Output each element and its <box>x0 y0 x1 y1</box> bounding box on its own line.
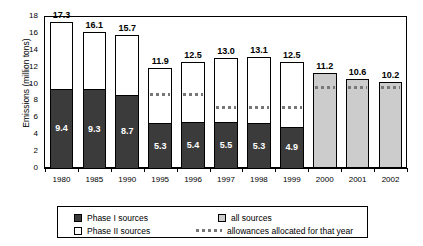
bar-phase1-value-1995: 5.3 <box>148 142 172 151</box>
all-sources-swatch <box>218 214 226 222</box>
chart-root: Emissions (million tons) 024681012141618… <box>0 0 423 246</box>
legend-label-allowances: allowances allocated for that year <box>227 226 353 236</box>
bar-group-1995[interactable]: 5.311.9 <box>148 16 172 168</box>
legend-label-all-sources: all sources <box>231 213 272 223</box>
bar-phase1-value-1998: 5.3 <box>247 142 271 151</box>
bar-phase1-value-1996: 5.4 <box>181 141 205 150</box>
x-axis-label-1999: 1999 <box>275 175 308 184</box>
bar-group-1997[interactable]: 5.513.0 <box>214 16 238 168</box>
bar-total-label-2000: 11.2 <box>307 62 343 71</box>
y-tick-label-6: 6 <box>18 113 38 121</box>
bar-phase1-value-1980: 9.4 <box>50 124 74 133</box>
bar-group-2001[interactable]: 10.6 <box>346 16 370 168</box>
legend-label-phase2: Phase II sources <box>87 226 150 236</box>
bar-total-label-1998: 13.1 <box>241 46 277 55</box>
legend-label-phase1: Phase I sources <box>87 213 148 223</box>
bar-phase1-value-1997: 5.5 <box>214 141 238 150</box>
phase1-swatch <box>74 214 82 222</box>
x-tick-mark-2002 <box>407 168 408 172</box>
x-tick-mark-1999 <box>308 168 309 172</box>
bar-phase1-value-1999: 4.9 <box>280 143 304 152</box>
bar-group-1999[interactable]: 4.912.5 <box>280 16 304 168</box>
bar-total-label-1999: 12.5 <box>274 51 310 60</box>
x-axis-label-1985: 1985 <box>78 175 111 184</box>
allowance-line-1995 <box>150 93 170 96</box>
y-tick-label-8: 8 <box>18 96 38 104</box>
bar-total-label-1996: 12.5 <box>175 51 211 60</box>
x-tick-mark-1990 <box>144 168 145 172</box>
x-axis-label-2002: 2002 <box>374 175 407 184</box>
x-tick-mark-2001 <box>374 168 375 172</box>
bar-all-sources-2001[interactable] <box>346 79 370 169</box>
y-tick-label-0: 0 <box>18 164 38 172</box>
bar-group-2002[interactable]: 10.2 <box>379 16 403 168</box>
allowance-line-2001 <box>348 86 368 89</box>
allowance-line-1999 <box>282 106 302 109</box>
x-axis-label-1998: 1998 <box>242 175 275 184</box>
allowance-line-1998 <box>249 106 269 109</box>
x-axis-label-2001: 2001 <box>341 175 374 184</box>
bar-group-1985[interactable]: 9.316.1 <box>83 16 107 168</box>
bar-series-container: 9.417.39.316.18.715.75.311.95.412.55.513… <box>45 16 407 168</box>
y-tick-label-4: 4 <box>18 130 38 138</box>
x-tick-mark-1997 <box>242 168 243 172</box>
bar-all-sources-2002[interactable] <box>379 82 403 168</box>
x-tick-mark-origin <box>45 168 46 172</box>
x-tick-mark-1980 <box>78 168 79 172</box>
allowance-line-2002 <box>381 86 401 89</box>
bar-phase1-value-1990: 8.7 <box>115 127 139 136</box>
y-tick-label-2: 2 <box>18 147 38 155</box>
x-axis-label-1997: 1997 <box>210 175 243 184</box>
bar-group-1998[interactable]: 5.313.1 <box>247 16 271 168</box>
bar-total-label-1990: 15.7 <box>109 24 145 33</box>
y-tick-label-12: 12 <box>18 63 38 71</box>
x-axis-line <box>44 168 408 169</box>
x-axis-label-1995: 1995 <box>144 175 177 184</box>
x-axis-label-2000: 2000 <box>308 175 341 184</box>
bar-total-label-1995: 11.9 <box>142 57 178 66</box>
y-tick-label-16: 16 <box>18 29 38 37</box>
legend-item-phase1: Phase I sources <box>74 213 148 223</box>
allowance-line-1997 <box>216 106 236 109</box>
bar-phase1-value-1985: 9.3 <box>83 125 107 134</box>
bar-total-label-2002: 10.2 <box>373 71 409 80</box>
bar-group-1996[interactable]: 5.412.5 <box>181 16 205 168</box>
bar-total-label-1980: 17.3 <box>44 11 80 20</box>
bar-group-2000[interactable]: 11.2 <box>313 16 337 168</box>
y-tick-label-10: 10 <box>18 80 38 88</box>
legend-item-all-sources: all sources <box>218 213 272 223</box>
x-tick-mark-1996 <box>210 168 211 172</box>
y-tick-label-18: 18 <box>18 12 38 20</box>
bar-total-label-1985: 16.1 <box>77 21 113 30</box>
x-axis-label-1996: 1996 <box>177 175 210 184</box>
y-axis-label-holder: Emissions (million tons) <box>4 30 16 150</box>
allowances-dotted-swatch <box>196 229 222 232</box>
allowance-line-2000 <box>315 86 335 89</box>
x-tick-mark-1985 <box>111 168 112 172</box>
phase2-swatch <box>74 227 82 235</box>
legend-item-allowances: allowances allocated for that year <box>196 226 353 236</box>
bar-total-label-2001: 10.6 <box>340 68 376 77</box>
y-tick-label-14: 14 <box>18 46 38 54</box>
chart-legend: Phase I sources all sources Phase II sou… <box>57 206 368 238</box>
legend-item-phase2: Phase II sources <box>74 226 150 236</box>
bar-group-1980[interactable]: 9.417.3 <box>50 16 74 168</box>
bar-total-label-1997: 13.0 <box>208 47 244 56</box>
bar-group-1990[interactable]: 8.715.7 <box>115 16 139 168</box>
x-tick-mark-2000 <box>341 168 342 172</box>
allowance-line-1996 <box>183 93 203 96</box>
x-tick-mark-1998 <box>275 168 276 172</box>
x-axis-label-1980: 1980 <box>45 175 78 184</box>
x-tick-mark-1995 <box>177 168 178 172</box>
x-axis-label-1990: 1990 <box>111 175 144 184</box>
